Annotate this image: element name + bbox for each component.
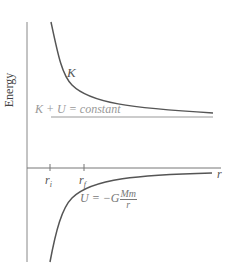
total-energy-label: K + U = constant	[35, 103, 121, 115]
fraction: Mmr	[120, 189, 138, 210]
potential-label: U = −GMmr	[80, 189, 137, 210]
y-axis-label: Energy	[3, 73, 15, 107]
energy-diagram	[0, 0, 237, 269]
kinetic-label: K	[67, 66, 76, 79]
potential-energy-curve	[50, 173, 212, 262]
tick-label-rf: rf	[79, 174, 86, 189]
x-axis-label: r	[217, 168, 222, 180]
tick-label-ri: ri	[45, 174, 52, 189]
